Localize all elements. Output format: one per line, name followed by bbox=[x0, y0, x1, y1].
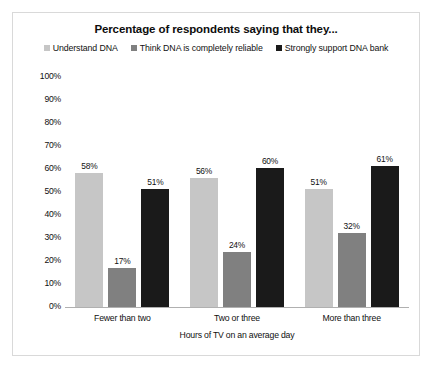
plot-wrapper: 100%90%80%70%60%50%40%30%20%10%0% 58%17%… bbox=[13, 13, 421, 357]
bar[interactable] bbox=[190, 178, 218, 307]
bar-column: 58% bbox=[75, 76, 103, 307]
bar-column: 17% bbox=[108, 76, 136, 307]
bar-value-label: 60% bbox=[262, 156, 278, 166]
y-axis-tick: 80% bbox=[21, 117, 61, 127]
x-axis-tick-label: More than three bbox=[322, 313, 380, 323]
x-axis-title: Hours of TV on an average day bbox=[65, 330, 409, 340]
bar[interactable] bbox=[305, 189, 333, 307]
bar-column: 32% bbox=[338, 76, 366, 307]
bar-column: 51% bbox=[305, 76, 333, 307]
bar-column: 60% bbox=[256, 76, 284, 307]
bar-group: 56%24%60% bbox=[180, 76, 295, 307]
y-axis-tick: 100% bbox=[21, 71, 61, 81]
y-axis-tick: 40% bbox=[21, 209, 61, 219]
y-axis-tick: 30% bbox=[21, 232, 61, 242]
bar[interactable] bbox=[338, 233, 366, 307]
bar[interactable] bbox=[371, 166, 399, 307]
bar[interactable] bbox=[141, 189, 169, 307]
bar-group: 58%17%51% bbox=[65, 76, 180, 307]
y-axis: 100%90%80%70%60%50%40%30%20%10%0% bbox=[21, 70, 61, 312]
y-axis-tick: 70% bbox=[21, 140, 61, 150]
y-axis-tick: 0% bbox=[21, 301, 61, 311]
bar[interactable] bbox=[223, 252, 251, 307]
x-axis-category-labels: Fewer than twoTwo or threeMore than thre… bbox=[65, 313, 409, 329]
bar-value-label: 58% bbox=[81, 161, 97, 171]
bar-value-label: 32% bbox=[344, 221, 360, 231]
y-axis-tick: 20% bbox=[21, 255, 61, 265]
bar[interactable] bbox=[108, 268, 136, 307]
bar-column: 51% bbox=[141, 76, 169, 307]
bar[interactable] bbox=[256, 168, 284, 307]
bar-group: 51%32%61% bbox=[294, 76, 409, 307]
plot-area: 58%17%51%56%24%60%51%32%61% bbox=[65, 76, 409, 308]
bar-value-label: 17% bbox=[114, 256, 130, 266]
y-axis-tick: 50% bbox=[21, 186, 61, 196]
bar-column: 24% bbox=[223, 76, 251, 307]
chart-frame: Percentage of respondents saying that th… bbox=[12, 12, 420, 356]
bar-value-label: 61% bbox=[377, 154, 393, 164]
bar-value-label: 51% bbox=[147, 177, 163, 187]
x-axis-tick-label: Two or three bbox=[214, 313, 260, 323]
bar-value-label: 51% bbox=[311, 177, 327, 187]
x-axis-tick-label: Fewer than two bbox=[94, 313, 151, 323]
bar-column: 56% bbox=[190, 76, 218, 307]
bar-value-label: 56% bbox=[196, 166, 212, 176]
bar-column: 61% bbox=[371, 76, 399, 307]
bar[interactable] bbox=[75, 173, 103, 307]
y-axis-tick: 60% bbox=[21, 163, 61, 173]
y-axis-tick: 10% bbox=[21, 278, 61, 288]
y-axis-tick: 90% bbox=[21, 94, 61, 104]
bar-value-label: 24% bbox=[229, 240, 245, 250]
